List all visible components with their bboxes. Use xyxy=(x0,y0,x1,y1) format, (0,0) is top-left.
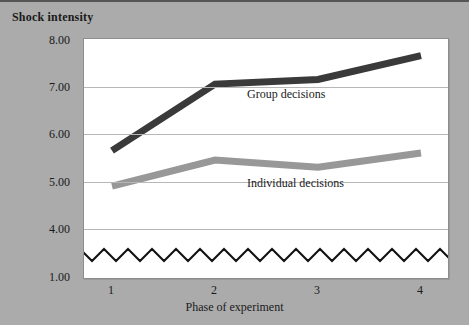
x-axis-title: Phase of experiment xyxy=(0,300,469,315)
series-label-individual: Individual decisions xyxy=(247,176,344,191)
plot-area: Group decisions Individual decisions xyxy=(83,38,449,279)
y-tick-label: 8.00 xyxy=(49,33,70,48)
gridline-4 xyxy=(84,229,448,230)
y-tick-label: 4.00 xyxy=(49,222,70,237)
x-tick-label: 1 xyxy=(108,283,114,298)
y-tick-label: 1.00 xyxy=(49,270,70,285)
y-tick-label: 6.00 xyxy=(49,127,70,142)
gridline-6 xyxy=(84,134,448,135)
line-group-decisions xyxy=(112,56,421,151)
x-tick-label: 2 xyxy=(211,283,217,298)
figure: Shock intensity 8.00 7.00 6.00 5.00 4.00… xyxy=(0,0,469,325)
axis-break-zigzag xyxy=(84,249,448,261)
x-tick-label: 4 xyxy=(417,283,423,298)
x-axis-ticks: 1 2 3 4 xyxy=(83,283,449,301)
y-tick-label: 7.00 xyxy=(49,80,70,95)
series-layer xyxy=(84,39,448,278)
y-tick-label: 5.00 xyxy=(49,175,70,190)
series-label-group: Group decisions xyxy=(247,87,325,102)
y-axis-ticks: 8.00 7.00 6.00 5.00 4.00 1.00 xyxy=(0,2,78,325)
plot-inner: Group decisions Individual decisions xyxy=(84,39,448,278)
x-tick-label: 3 xyxy=(314,283,320,298)
